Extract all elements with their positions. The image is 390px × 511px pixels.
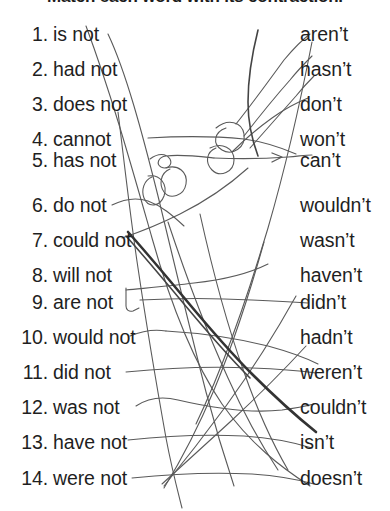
item-word: are not: [53, 290, 113, 314]
item-number: 1.: [0, 22, 53, 46]
item-word: has not: [53, 148, 116, 172]
list-item[interactable]: weren’t: [300, 360, 390, 384]
list-item[interactable]: 8. will not: [0, 263, 180, 287]
list-item[interactable]: can’t: [300, 148, 390, 172]
item-word: was not: [53, 395, 120, 419]
list-item[interactable]: didn’t: [300, 290, 390, 314]
item-number: 13.: [0, 430, 53, 454]
list-item[interactable]: 3. does not: [0, 92, 180, 116]
list-item[interactable]: 14. were not: [0, 466, 180, 490]
item-number: 12.: [0, 395, 53, 419]
list-item[interactable]: 6. do not: [0, 193, 180, 217]
item-word: do not: [53, 193, 107, 217]
item-number: 2.: [0, 57, 53, 81]
list-item[interactable]: 12. was not: [0, 395, 180, 419]
item-word: would not: [53, 325, 136, 349]
list-item[interactable]: wouldn’t: [300, 193, 390, 217]
list-item[interactable]: haven’t: [300, 263, 390, 287]
list-item[interactable]: 10. would not: [0, 325, 180, 349]
list-item[interactable]: hasn’t: [300, 57, 390, 81]
item-word: is not: [53, 22, 99, 46]
item-number: 3.: [0, 92, 53, 116]
item-number: 8.: [0, 263, 53, 287]
list-item[interactable]: 11. did not: [0, 360, 180, 384]
list-item[interactable]: couldn’t: [300, 395, 390, 419]
list-item[interactable]: 13. have not: [0, 430, 180, 454]
item-number: 9.: [0, 290, 53, 314]
item-number: 10.: [0, 325, 53, 349]
item-word: does not: [53, 92, 127, 116]
list-item[interactable]: hadn’t: [300, 325, 390, 349]
page-title: Match each word with its contraction.: [0, 0, 390, 7]
list-item[interactable]: aren’t: [300, 22, 390, 46]
list-item[interactable]: 2. had not: [0, 57, 180, 81]
item-word: will not: [53, 263, 112, 287]
list-item[interactable]: isn’t: [300, 430, 390, 454]
item-number: 6.: [0, 193, 53, 217]
item-word: were not: [53, 466, 127, 490]
list-item[interactable]: 1. is not: [0, 22, 180, 46]
item-number: 5.: [0, 148, 53, 172]
item-word: did not: [53, 360, 111, 384]
list-item[interactable]: 9. are not: [0, 290, 180, 314]
item-word: have not: [53, 430, 127, 454]
list-item[interactable]: doesn’t: [300, 466, 390, 490]
item-number: 7.: [0, 228, 53, 252]
item-word: had not: [53, 57, 117, 81]
list-item[interactable]: don’t: [300, 92, 390, 116]
worksheet-page: Match each word with its contraction.: [0, 0, 390, 511]
list-item[interactable]: 5. has not: [0, 148, 180, 172]
item-number: 11.: [0, 360, 53, 384]
list-item[interactable]: 7. could not: [0, 228, 180, 252]
item-number: 14.: [0, 466, 53, 490]
list-item[interactable]: wasn’t: [300, 228, 390, 252]
item-word: could not: [53, 228, 131, 252]
